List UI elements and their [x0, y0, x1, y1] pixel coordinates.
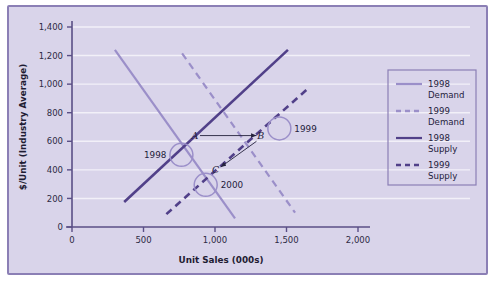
annotation-c: C	[212, 164, 220, 175]
legend-label-3-line2: Supply	[428, 171, 457, 181]
legend-label-0-line2: Demand	[428, 90, 464, 100]
equilibrium-label-2000: 2000	[221, 180, 244, 190]
y-axis-title: $/Unit (Industry Average)	[18, 64, 28, 190]
annotation-a: A	[191, 130, 199, 141]
legend-label-1-line2: Demand	[428, 117, 464, 127]
x-tick-label-4: 2,000	[346, 235, 370, 245]
y-tick-label-5: 1,000	[39, 79, 63, 89]
y-tick-label-7: 1,400	[39, 22, 63, 32]
legend-label-0-line1: 1998	[428, 79, 450, 89]
y-tick-label-2: 400	[47, 165, 63, 175]
x-axis-title: Unit Sales (000s)	[179, 255, 264, 265]
equilibrium-label-1998: 1998	[144, 150, 166, 160]
supply-demand-chart: 02004006008001,0001,2001,40005001,0001,5…	[0, 0, 495, 281]
y-tick-label-1: 200	[47, 194, 63, 204]
y-tick-label-6: 1,200	[39, 51, 63, 61]
legend-label-3-line1: 1999	[428, 160, 450, 170]
equilibrium-label-1999: 1999	[294, 124, 316, 134]
legend-label-1-line1: 1999	[428, 106, 450, 116]
data-series	[115, 50, 307, 219]
legend-label-2-line1: 1998	[428, 133, 450, 143]
x-tick-label-0: 0	[69, 235, 74, 245]
x-tick-label-1: 500	[135, 235, 151, 245]
figure-container: 02004006008001,0001,2001,40005001,0001,5…	[0, 0, 495, 281]
chart-legend: 1998Demand1999Demand1998Supply1999Supply	[388, 70, 476, 185]
equilibrium-circle-1999	[268, 117, 291, 140]
y-tick-label-3: 600	[47, 136, 63, 146]
b-to-c-arrow	[221, 141, 257, 167]
y-tick-label-4: 800	[47, 108, 63, 118]
y-tick-label-0: 0	[58, 222, 63, 232]
x-tick-label-2: 1,000	[203, 235, 227, 245]
legend-label-2-line2: Supply	[428, 144, 457, 154]
grid-lines	[72, 27, 470, 198]
x-tick-label-3: 1,500	[274, 235, 298, 245]
annotation-b: B	[256, 130, 264, 141]
